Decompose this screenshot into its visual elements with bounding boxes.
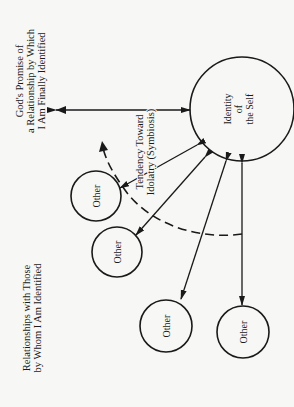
gods-promise-line-2: a Relationship by Which <box>25 28 36 133</box>
other-label-2: Other <box>112 240 123 263</box>
identity-diagram: God's Promise of a Relationship by Which… <box>0 0 294 407</box>
relationships-label: Relationships with Those by Whom I Am Id… <box>21 263 43 373</box>
relationships-line-1: Relationships with Those <box>21 264 32 371</box>
other-label-1: Other <box>91 184 102 207</box>
gods-promise-line-3: I Am Finally Identified <box>36 32 47 130</box>
tendency-line-2: Idolatry (Symbiosis) <box>145 108 157 195</box>
gods-promise-line-1: God's Promise of <box>14 44 25 117</box>
other-label-4: Other <box>238 320 249 343</box>
self-node: Identity of the Self <box>190 57 294 161</box>
relationship-arrow-1 <box>120 145 197 188</box>
other-node-2: Other <box>92 227 142 277</box>
idolatry-dashed-arc <box>103 148 242 235</box>
self-label-line-2: of <box>233 104 244 113</box>
other-label-3: Other <box>161 314 172 337</box>
arrowhead-icon <box>56 106 66 114</box>
self-label-line-1: Identity <box>222 93 233 124</box>
relationships-line-2: by Whom I Am Identified <box>32 263 43 373</box>
tendency-line-1: Tendency Toward <box>134 114 145 190</box>
self-label-line-3: the Self <box>244 93 255 124</box>
relationship-arrow-3 <box>181 161 226 299</box>
other-node-3: Other <box>140 300 192 352</box>
other-node-4: Other <box>217 306 269 358</box>
dashed-arc-arrowhead-icon <box>99 141 108 152</box>
gods-promise-label: God's Promise of a Relationship by Which… <box>14 28 47 133</box>
tendency-label: Tendency Toward Idolatry (Symbiosis) <box>134 108 157 195</box>
other-node-1: Other <box>71 171 121 221</box>
